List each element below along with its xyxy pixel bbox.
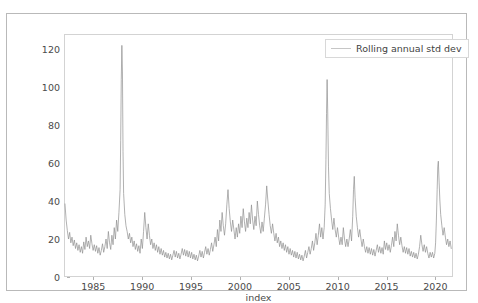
y-tick-label: 120 — [20, 44, 60, 55]
x-tick-mark — [240, 277, 241, 280]
x-tick-label: 1990 — [120, 281, 164, 292]
legend-line-swatch — [331, 48, 351, 49]
x-tick-mark — [338, 277, 339, 280]
legend-label: Rolling annual std dev — [356, 43, 462, 54]
plot-area — [64, 34, 453, 277]
series-rolling-annual-std-dev — [64, 34, 453, 277]
page-title: PERFORMANCE: Pro with Your Cost Metric F… — [4, 0, 474, 5]
y-tick-label: 0 — [20, 272, 60, 283]
y-tick-label: 100 — [20, 82, 60, 93]
x-tick-mark — [387, 277, 388, 280]
y-tick-label: 60 — [20, 158, 60, 169]
x-tick-label: 2005 — [267, 281, 311, 292]
x-tick-mark — [289, 277, 290, 280]
x-tick-label: 1995 — [169, 281, 213, 292]
x-tick-label: 2010 — [316, 281, 360, 292]
x-tick-label: 2000 — [218, 281, 262, 292]
figure-card: 020406080100120 198519901995200020052010… — [6, 13, 467, 291]
x-tick-mark — [93, 277, 94, 280]
x-axis-label: index — [64, 292, 453, 303]
legend: Rolling annual std dev — [325, 39, 469, 58]
y-tick-label: 80 — [20, 120, 60, 131]
x-tick-mark — [435, 277, 436, 280]
y-tick-label: 40 — [20, 196, 60, 207]
x-tick-label: 2015 — [365, 281, 409, 292]
y-tick-label: 20 — [20, 234, 60, 245]
y-axis-ticks: 020406080100120 — [15, 34, 60, 277]
x-tick-mark — [142, 277, 143, 280]
x-tick-label: 1985 — [71, 281, 115, 292]
x-tick-label: 2020 — [413, 281, 457, 292]
x-tick-mark — [191, 277, 192, 280]
